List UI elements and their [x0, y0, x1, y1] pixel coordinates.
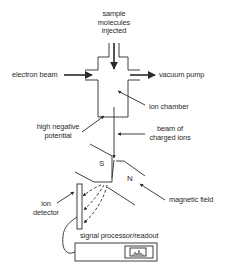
sample-label: sample molecules injected — [91, 10, 137, 36]
ion-trajectories — [83, 185, 107, 223]
ion-detector-line2: detector — [31, 209, 61, 218]
high-negative-pointer — [82, 116, 104, 132]
magnetic-field-label: magnetic field — [169, 196, 213, 205]
sample-label-line3: injected — [91, 27, 137, 36]
beam-of-charged-ions-label: beam of charged ions — [145, 125, 195, 142]
ion-chamber-outline — [85, 57, 140, 117]
ion-chamber-pointer — [118, 91, 145, 105]
beam-label-line2: charged ions — [145, 134, 195, 143]
magnet-s-label: S — [99, 160, 104, 169]
high-negative-line2: potential — [33, 132, 83, 141]
vacuum-pump-label: vacuum pump — [159, 71, 204, 80]
magnet-s-pole — [75, 144, 112, 182]
ion-detector-plate — [77, 184, 82, 229]
ion-chamber-label: ion chamber — [149, 103, 189, 112]
magnet-n-label: N — [127, 175, 133, 184]
magnetic-field-pointer — [140, 184, 165, 200]
signal-processor-label: signal processor/readout — [80, 232, 159, 241]
high-negative-potential-label: high negative potential — [33, 123, 83, 140]
magnet-n-pole-lower — [107, 187, 135, 205]
ion-detector-label: ion detector — [31, 200, 61, 217]
spectrum-icon — [132, 250, 144, 255]
electron-beam-label: electron beam — [12, 71, 58, 80]
